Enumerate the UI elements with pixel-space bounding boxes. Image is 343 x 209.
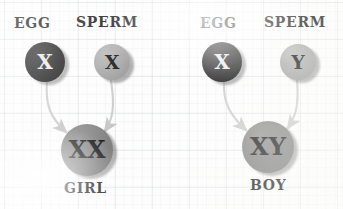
label-boy: BOY [250,177,286,193]
arrow-girl-sperm [105,81,113,131]
chromosome-offspring-boy: XY [250,135,286,159]
cell-sperm-girl: X [94,44,130,80]
cell-offspring-boy: XY [242,121,294,173]
label-sperm-boy: SPERM [264,14,326,30]
fertilization-arrows [0,0,343,209]
cell-offspring-girl: XX [61,124,113,176]
label-egg-boy: EGG [200,15,237,31]
arrow-boy-egg [224,82,246,130]
label-sperm-girl: SPERM [76,14,138,30]
chromosome-egg-boy: X [214,52,230,72]
chromosome-sperm-girl: X [105,53,120,72]
chromosome-offspring-girl: XX [68,138,105,162]
arrow-boy-sperm [288,81,298,128]
cell-sperm-boy: Y [280,44,316,80]
chromosome-egg-girl: X [37,52,53,72]
label-girl: GIRL [64,180,107,196]
sex-determination-diagram: EGG SPERM X X XX GIRL EGG SPERM X Y XY B… [0,0,343,209]
cell-egg-boy: X [202,42,242,82]
cell-egg-girl: X [25,42,65,82]
arrow-girl-egg [47,82,66,132]
chromosome-sperm-boy: Y [291,53,305,72]
label-egg-girl: EGG [14,15,51,31]
